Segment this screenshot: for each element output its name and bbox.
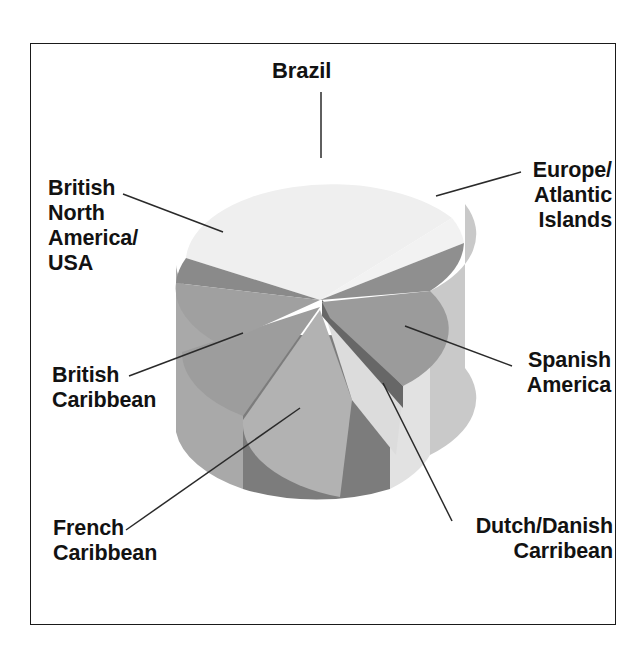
label-british-north-america-usa: British North America/ USA — [48, 176, 138, 277]
label-french-caribbean: French Caribbean — [53, 516, 157, 566]
label-british-caribbean: British Caribbean — [52, 363, 156, 413]
leader-line-europe-atlantic — [436, 172, 521, 196]
label-dutch-danish-caribbean: Dutch/Danish Carribean — [476, 514, 613, 564]
figure-page: Brazil Europe/ Atlantic Islands British … — [0, 0, 635, 647]
label-europe-atlantic-islands: Europe/ Atlantic Islands — [533, 158, 612, 233]
label-spanish-america: Spanish America — [527, 348, 611, 398]
label-brazil: Brazil — [272, 58, 331, 84]
